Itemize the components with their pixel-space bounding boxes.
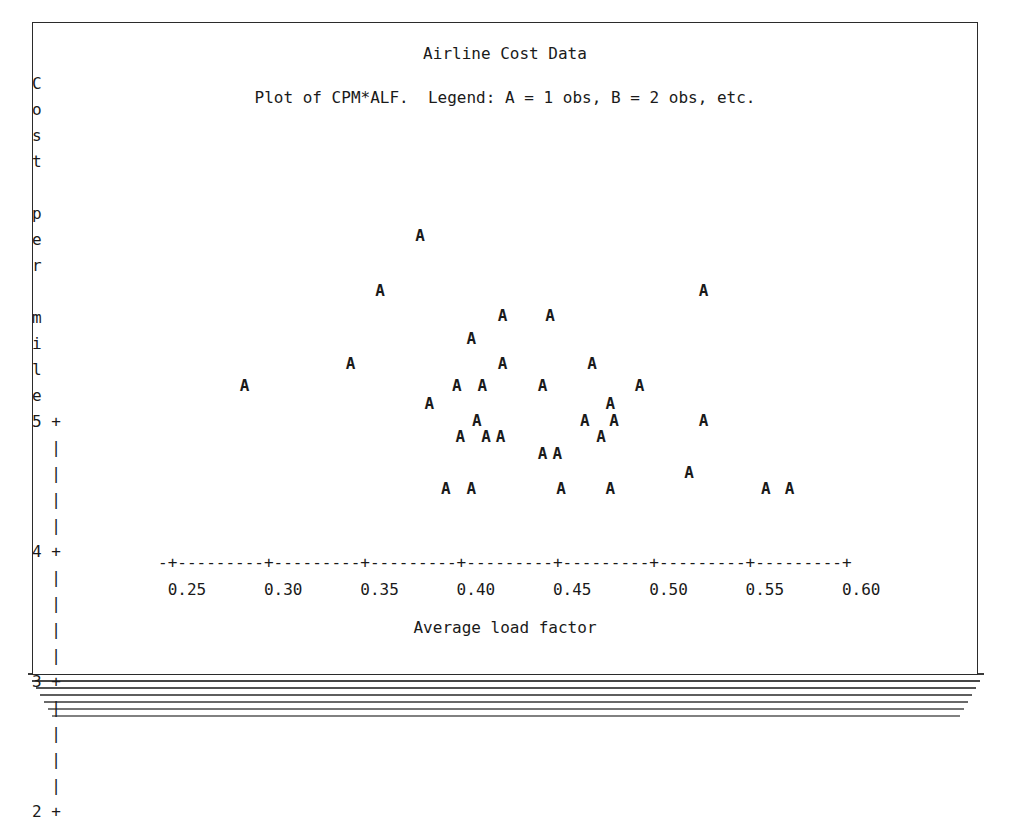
data-point-marker: A: [761, 478, 771, 497]
data-point-marker: A: [580, 411, 590, 430]
data-point-marker: A: [424, 394, 434, 413]
data-point-marker: A: [699, 411, 709, 430]
data-point-marker: A: [684, 463, 694, 482]
data-point-marker: A: [556, 478, 566, 497]
y-axis-segment: |: [32, 750, 978, 776]
y-axis-title-char: p: [32, 204, 978, 230]
y-axis-segment: |: [32, 516, 978, 542]
y-axis-title-char: [32, 178, 978, 204]
data-point-marker: A: [481, 426, 491, 445]
data-point-marker: A: [785, 478, 795, 497]
y-axis-title-char: e: [32, 230, 978, 256]
data-point-marker: A: [545, 305, 555, 324]
y-axis-title-char: r: [32, 256, 978, 282]
x-axis-line: -+---------+---------+---------+--------…: [158, 555, 852, 571]
y-axis-segment: |: [32, 646, 978, 672]
y-axis-title-char: [32, 282, 978, 308]
y-axis-title-char: t: [32, 152, 978, 178]
data-point-marker: A: [609, 411, 619, 430]
x-axis-tick-labels: 0.25 0.30 0.35 0.40 0.45 0.50 0.55 0.60: [158, 582, 880, 598]
data-point-marker: A: [452, 375, 462, 394]
data-point-marker: A: [441, 478, 451, 497]
data-point-marker: A: [699, 281, 709, 300]
chart-canvas: Airline Cost Data Plot of CPM*ALF. Legen…: [32, 22, 978, 675]
data-point-marker: A: [478, 375, 488, 394]
y-axis-segment: |: [32, 724, 978, 750]
y-axis-tick: 2 +: [32, 802, 978, 821]
data-point-marker: A: [467, 329, 477, 348]
y-axis-title-char: s: [32, 126, 978, 152]
y-axis-segment: |: [32, 776, 978, 802]
data-point-marker: A: [606, 478, 616, 497]
y-axis-title-char: e: [32, 386, 978, 412]
y-axis-segment: |: [32, 698, 978, 724]
data-point-marker: A: [552, 443, 562, 462]
data-point-marker: A: [538, 443, 548, 462]
data-point-marker: A: [538, 375, 548, 394]
x-axis-title: Average load factor: [32, 620, 978, 636]
data-point-marker: A: [456, 426, 466, 445]
data-point-marker: A: [596, 426, 606, 445]
data-point-marker: A: [375, 281, 385, 300]
data-point-marker: A: [498, 305, 508, 324]
data-point-marker: A: [587, 353, 597, 372]
data-point-marker: A: [415, 226, 425, 245]
y-axis-segment: |: [32, 464, 978, 490]
chart-subtitle-legend: Plot of CPM*ALF. Legend: A = 1 obs, B = …: [32, 90, 978, 106]
y-axis-tick: 3 +: [32, 672, 978, 698]
y-axis-segment: |: [32, 490, 978, 516]
data-point-marker: A: [240, 375, 250, 394]
data-point-marker: A: [635, 375, 645, 394]
y-axis: 5 + | | | |4 + | | | |3 + | | | |2 +: [32, 412, 978, 821]
data-point-marker: A: [496, 426, 506, 445]
chart-title: Airline Cost Data: [32, 46, 978, 62]
data-point-marker: A: [346, 353, 356, 372]
data-point-marker: A: [467, 478, 477, 497]
data-point-marker: A: [498, 353, 508, 372]
